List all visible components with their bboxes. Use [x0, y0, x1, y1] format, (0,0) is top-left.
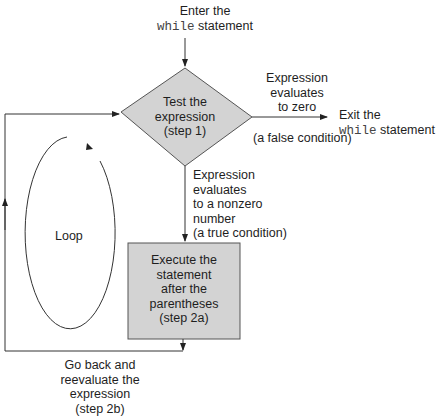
return-line4: (step 2b): [45, 402, 155, 416]
exit-line2: while statement: [339, 123, 435, 139]
process-line2: statement: [128, 268, 240, 283]
exit-keyword: while: [339, 124, 377, 138]
decision-line3: (step 1): [140, 124, 230, 139]
true-line2: evaluates: [193, 183, 287, 198]
entry-keyword: while: [157, 20, 195, 34]
return-line2: reevaluate the: [45, 373, 155, 388]
entry-label: Enter the while statement: [150, 4, 260, 34]
process-label: Execute the statement after the parenthe…: [128, 253, 240, 326]
return-line3: expression: [45, 387, 155, 402]
return-label: Go back and reevaluate the expression (s…: [45, 358, 155, 416]
true-line4: number: [193, 212, 287, 227]
exit-suffix: statement: [377, 123, 435, 137]
return-line1: Go back and: [45, 358, 155, 373]
true-condition: (a true condition): [193, 226, 287, 241]
decision-line2: expression: [140, 110, 230, 125]
false-line3: to zero: [262, 100, 332, 115]
decision-label: Test the expression (step 1): [140, 95, 230, 139]
process-line3: after the: [128, 282, 240, 297]
process-line1: Execute the: [128, 253, 240, 268]
loop-arrowhead-icon: [86, 143, 93, 150]
true-line1: Expression: [193, 168, 287, 183]
entry-line2: while statement: [150, 19, 260, 35]
decision-line1: Test the: [140, 95, 230, 110]
process-line5: (step 2a): [128, 311, 240, 326]
false-line1: Expression: [262, 71, 332, 86]
loop-label: Loop: [55, 229, 83, 244]
exit-line1: Exit the: [339, 108, 435, 123]
entry-suffix: statement: [195, 19, 253, 33]
entry-line1: Enter the: [150, 4, 260, 19]
false-branch-label: Expression evaluates to zero: [262, 71, 332, 115]
true-branch-label: Expression evaluates to a nonzero number…: [193, 168, 287, 241]
exit-label: Exit the while statement: [339, 108, 435, 138]
process-line4: parentheses: [128, 297, 240, 312]
true-line3: to a nonzero: [193, 197, 287, 212]
false-line2: evaluates: [262, 86, 332, 101]
false-condition-label: (a false condition): [253, 131, 352, 146]
